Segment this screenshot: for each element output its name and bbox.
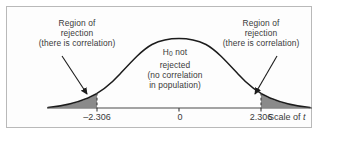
x-axis-title-variable: t [303,112,306,122]
null-hypothesis-label-line3: (no correlation [128,70,222,80]
left-rejection-label-line1: Region of [16,18,138,28]
left-annotation-arrow [62,56,87,94]
right-annotation-arrow [255,56,277,94]
null-hypothesis-label-line2: rejected [128,60,222,70]
null-hypothesis-label: H0 not rejected (no correlation in popul… [128,47,222,90]
x-axis-title-text: Scale of [268,112,303,122]
left-rejection-region-fill [48,93,97,107]
hypothesis-suffix: not [173,47,187,57]
x-axis-title: Scale of t [268,112,338,123]
null-hypothesis-label-line1: H0 not [128,47,222,60]
t-distribution-figure: Region of rejection (there is correlatio… [0,0,348,146]
right-rejection-region-fill [261,93,310,107]
tick-label-zero: 0 [154,112,206,123]
left-rejection-label: Region of rejection (there is correlatio… [16,18,138,49]
left-rejection-label-line2: rejection [16,28,138,38]
left-rejection-label-line3: (there is correlation) [16,38,138,48]
right-rejection-label: Region of rejection (there is correlatio… [200,18,322,49]
null-hypothesis-label-line4: in population) [128,80,222,90]
tick-label-negative: –2.306 [70,112,124,123]
right-rejection-label-line2: rejection [200,28,322,38]
right-rejection-label-line1: Region of [200,18,322,28]
